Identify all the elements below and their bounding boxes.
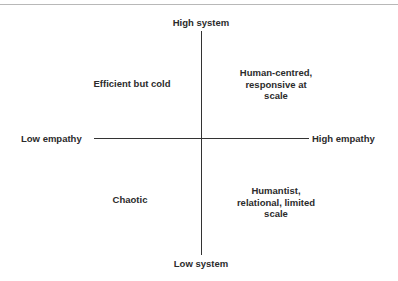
quadrant-bottom-right-line-3: scale: [226, 208, 326, 220]
horizontal-axis-empathy: [94, 138, 309, 139]
vertical-axis-system: [201, 31, 202, 255]
quadrant-bottom-right-label: Humantist, relational, limited scale: [226, 185, 326, 220]
quadrant-bottom-left-label: Chaotic: [95, 194, 165, 206]
axis-label-high-system: High system: [0, 17, 398, 29]
axis-label-low-empathy: Low empathy: [21, 133, 82, 145]
quadrant-top-right-line-1: Human-centred,: [226, 67, 326, 79]
top-divider-rule: [0, 4, 398, 5]
axis-label-high-empathy: High empathy: [312, 133, 375, 145]
quadrant-top-left-label: Efficient but cold: [82, 78, 182, 90]
axis-label-low-system: Low system: [0, 258, 398, 270]
quadrant-top-right-label: Human-centred, responsive at scale: [226, 67, 326, 102]
quadrant-bottom-right-line-2: relational, limited: [226, 197, 326, 209]
quadrant-top-right-line-2: responsive at: [226, 79, 326, 91]
quadrant-top-right-line-3: scale: [226, 90, 326, 102]
quadrant-bottom-right-line-1: Humantist,: [226, 185, 326, 197]
